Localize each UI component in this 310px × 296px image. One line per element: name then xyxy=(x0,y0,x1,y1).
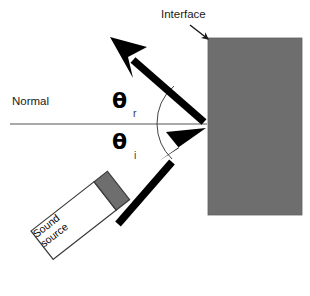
normal-label: Normal xyxy=(12,96,49,108)
interface-block xyxy=(208,38,302,215)
theta-incident-symbol: θ xyxy=(112,131,127,153)
theta-incident-subscript: i xyxy=(134,150,136,161)
reflection-diagram-svg xyxy=(0,0,310,296)
interface-label: Interface xyxy=(161,9,206,21)
diagram-canvas: Interface Normal θ r θ i Sound source xyxy=(0,0,310,296)
incident-ray-arrow xyxy=(118,128,206,224)
theta-reflected-symbol: θ xyxy=(112,90,127,112)
interface-pointer-arrow xyxy=(190,25,208,39)
theta-reflected-subscript: r xyxy=(133,108,137,119)
